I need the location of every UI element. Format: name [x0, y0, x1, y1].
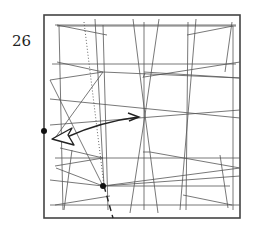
crease-line [64, 150, 72, 210]
crease-line [95, 19, 104, 186]
crease-line [57, 62, 103, 72]
crease-diagram [0, 0, 258, 229]
crease-line [150, 152, 240, 168]
crease-line [145, 115, 158, 213]
crease-line [103, 168, 240, 186]
crease-line [133, 19, 145, 115]
crease-line [187, 26, 233, 35]
arrow-hollow-head-icon [52, 128, 74, 145]
crease-line [59, 25, 63, 210]
crease-line [145, 19, 159, 115]
dashed-fold-line [104, 186, 113, 218]
crease-line [57, 25, 107, 35]
arrow-shaft [67, 117, 138, 137]
crease-line [130, 115, 145, 213]
reference-point-dot [100, 183, 106, 189]
crease-line [103, 176, 240, 186]
paper-square-frame [44, 15, 240, 218]
crease-line [220, 155, 228, 208]
crease-line [50, 72, 103, 80]
crease-line [55, 196, 110, 205]
crease-line [183, 195, 232, 205]
crease-lines [50, 19, 240, 213]
left-edge-point-dot [41, 128, 47, 134]
crease-line [60, 148, 103, 158]
